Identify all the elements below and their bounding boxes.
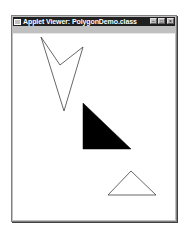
polygon-drawing bbox=[0, 0, 184, 235]
filled-triangle bbox=[83, 103, 131, 149]
arrowhead-polygon bbox=[41, 37, 83, 111]
outline-triangle bbox=[108, 171, 156, 195]
